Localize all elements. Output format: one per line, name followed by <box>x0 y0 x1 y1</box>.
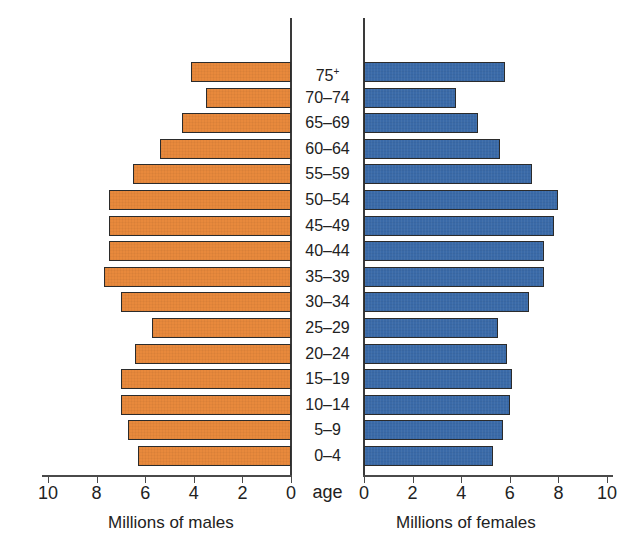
female-bar <box>364 369 512 389</box>
female-bar <box>364 190 558 210</box>
male-bar <box>133 164 291 184</box>
female-value-axis <box>363 475 613 477</box>
age-label: 30–34 <box>292 295 363 309</box>
female-bar <box>364 292 529 312</box>
male-bar <box>128 420 291 440</box>
female-bar <box>364 420 503 440</box>
male-bar <box>160 139 291 159</box>
female-bar <box>364 267 544 287</box>
male-bar <box>104 267 291 287</box>
male-bar <box>121 292 291 312</box>
age-label: 25–29 <box>292 321 363 335</box>
age-group-labels: 75+70–7465–6960–6455–5950–5445–4940–4435… <box>292 55 363 475</box>
male-bar <box>182 113 291 133</box>
axis-tick-label: 10 <box>592 483 622 504</box>
male-bar <box>109 190 291 210</box>
axis-tick-label: 6 <box>130 483 160 504</box>
age-label: 40–44 <box>292 244 363 258</box>
age-label: 35–39 <box>292 270 363 284</box>
male-bar <box>109 241 291 261</box>
axis-tick-label: 4 <box>446 483 476 504</box>
female-bar <box>364 395 510 415</box>
male-bar <box>152 318 291 338</box>
age-label: 20–24 <box>292 347 363 361</box>
female-bar <box>364 164 532 184</box>
age-label: 45–49 <box>292 219 363 233</box>
age-label: 15–19 <box>292 372 363 386</box>
age-label: 0–4 <box>292 449 363 463</box>
female-bar <box>364 446 493 466</box>
population-pyramid-chart: 1086420 0246810 75+70–7465–6960–6455–595… <box>0 0 642 555</box>
female-bar <box>364 139 500 159</box>
axis-tick-label: 4 <box>179 483 209 504</box>
age-label: 65–69 <box>292 116 363 130</box>
age-label: 75+ <box>292 65 363 83</box>
male-bar <box>135 344 291 364</box>
axis-tick-label: 2 <box>398 483 428 504</box>
male-bar <box>138 446 291 466</box>
age-axis-caption: age <box>292 482 363 503</box>
axis-tick-label: 2 <box>227 483 257 504</box>
axis-tick-label: 10 <box>33 483 63 504</box>
age-label: 60–64 <box>292 142 363 156</box>
female-bar <box>364 241 544 261</box>
age-label: 10–14 <box>292 398 363 412</box>
age-label: 50–54 <box>292 193 363 207</box>
chart-title <box>0 0 642 8</box>
female-bar <box>364 62 505 82</box>
axis-tick-label: 8 <box>543 483 573 504</box>
female-bar <box>364 113 478 133</box>
male-value-axis <box>42 475 292 477</box>
female-bar <box>364 88 456 108</box>
female-bar <box>364 216 554 236</box>
age-label: 55–59 <box>292 167 363 181</box>
male-bar <box>206 88 291 108</box>
age-label: 5–9 <box>292 423 363 437</box>
female-bar <box>364 344 507 364</box>
male-bar <box>121 369 291 389</box>
axis-tick-label: 8 <box>82 483 112 504</box>
age-label: 70–74 <box>292 91 363 105</box>
male-bar <box>109 216 291 236</box>
male-bar <box>191 62 291 82</box>
female-bar <box>364 318 498 338</box>
male-axis-title: Millions of males <box>108 513 234 533</box>
axis-tick-label: 6 <box>495 483 525 504</box>
male-bar <box>121 395 291 415</box>
female-axis-title: Millions of females <box>396 513 536 533</box>
